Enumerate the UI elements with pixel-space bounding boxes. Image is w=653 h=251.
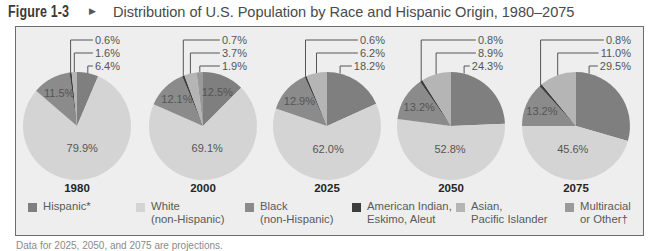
legend-label: Asian, Pacific Islander — [471, 200, 548, 225]
callout-value-label: 6.4% — [95, 60, 120, 72]
legend-label: Multiracial or Other† — [580, 200, 631, 225]
pie-2075: 29.5%45.6%13.2%0.8%11.0% — [522, 34, 631, 180]
callout-value-label: 1.9% — [222, 60, 247, 72]
callout-value-label: 6.2% — [360, 47, 385, 59]
slice-value-label: 13.2% — [404, 101, 435, 113]
swatch-american-indian — [352, 203, 361, 212]
callout-value-label: 0.7% — [222, 34, 247, 46]
leader-line — [183, 40, 220, 76]
callout-value-label: 8.9% — [478, 47, 503, 59]
swatch-black — [245, 203, 254, 212]
slice-value-label: 12.5% — [202, 86, 233, 98]
year-label-2075: 2075 — [546, 182, 606, 194]
callout-value-label: 1.6% — [95, 47, 120, 59]
callout-value-label: 0.6% — [95, 34, 120, 46]
slice-value-label: 45.6% — [557, 143, 588, 155]
year-label-2050: 2050 — [421, 182, 481, 194]
callout-value-label: 0.8% — [606, 34, 631, 46]
leader-line — [88, 66, 93, 73]
slice-value-label: 79.9% — [67, 142, 98, 154]
leader-line — [464, 66, 470, 74]
year-label-2000: 2000 — [173, 182, 233, 194]
slice-value-label: 69.1% — [192, 142, 223, 154]
callout-value-label: 29.5% — [600, 60, 631, 72]
pie-2000: 12.5%69.1%12.1%0.7%3.7%1.9% — [149, 34, 257, 180]
leader-line — [558, 53, 599, 75]
swatch-asian — [456, 203, 465, 212]
pie-1980: 6.4%79.9%11.5%0.6%1.6% — [23, 34, 131, 180]
slice-value-label: 11.5% — [44, 87, 75, 99]
callout-value-label: 0.8% — [478, 34, 503, 46]
leader-line — [589, 66, 598, 74]
pie-2050: 24.3%52.8%13.2%0.8%8.9% — [397, 34, 505, 180]
year-label-1980: 1980 — [47, 182, 107, 194]
callout-value-label: 24.3% — [472, 60, 503, 72]
slice-value-label: 12.1% — [161, 93, 192, 105]
legend-label: Black (non-Hispanic) — [260, 200, 333, 225]
year-label-2025: 2025 — [297, 182, 357, 194]
leader-line — [317, 53, 358, 73]
callout-value-label: 0.6% — [360, 34, 385, 46]
slice-value-label: 13.2% — [526, 105, 557, 117]
slice-hispanic — [451, 72, 505, 126]
legend-label: Hispanic* — [43, 200, 91, 213]
leader-line — [306, 40, 358, 77]
pie-2025: 18.2%62.0%12.9%0.6%6.2% — [273, 34, 385, 180]
leader-line — [200, 66, 220, 72]
leader-line — [340, 66, 352, 74]
slice-value-label: 62.0% — [312, 143, 343, 155]
swatch-hispanic — [28, 203, 37, 212]
leader-line — [74, 53, 93, 72]
slice-value-label: 12.9% — [284, 95, 315, 107]
footnote: Data for 2025, 2050, and 2075 are projec… — [16, 240, 223, 251]
callout-value-label: 18.2% — [354, 60, 385, 72]
callout-value-label: 3.7% — [222, 47, 247, 59]
legend-label: White (non-Hispanic) — [151, 200, 224, 225]
callout-value-label: 11.0% — [601, 47, 632, 59]
leader-line — [190, 53, 220, 74]
swatch-white — [136, 203, 145, 212]
leader-line — [436, 53, 476, 74]
legend-label: American Indian, Eskimo, Aleut — [367, 200, 452, 225]
swatch-multiracial — [565, 203, 574, 212]
slice-value-label: 52.8% — [434, 143, 465, 155]
